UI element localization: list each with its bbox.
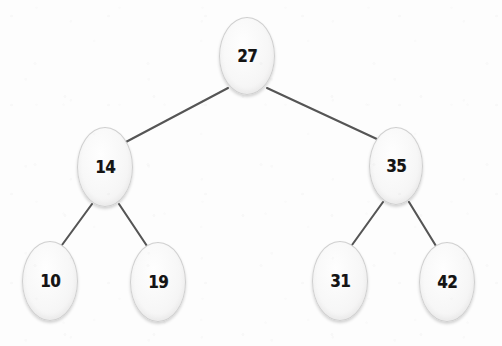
tree-edge-n35-to-n31 [352,202,383,245]
tree-node-10[interactable]: 10 [22,241,78,321]
tree-node-label: 27 [237,46,257,66]
tree-node-label: 19 [148,272,168,292]
tree-node-27[interactable]: 27 [219,17,275,95]
tree-node-14[interactable]: 14 [77,127,133,207]
tree-edge-n35-to-n42 [409,202,436,246]
tree-node-31[interactable]: 31 [312,241,368,321]
tree-diagram-canvas: 27143510193142 [0,0,502,346]
tree-node-19[interactable]: 19 [130,242,186,322]
tree-edge-n27-to-n35 [267,88,379,140]
tree-node-label: 14 [95,157,115,177]
tree-edge-n27-to-n14 [124,88,228,143]
tree-edge-n14-to-n10 [62,204,92,245]
tree-node-35[interactable]: 35 [369,127,423,205]
tree-node-42[interactable]: 42 [419,242,475,322]
tree-node-label: 31 [330,271,350,291]
tree-node-label: 42 [437,272,457,292]
tree-node-label: 10 [40,271,60,291]
tree-edge-n14-to-n19 [119,204,147,246]
tree-node-label: 35 [386,156,406,176]
